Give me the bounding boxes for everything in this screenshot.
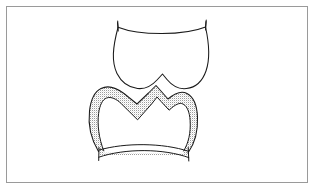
upper-tooth-left-tick <box>118 21 119 31</box>
upper-tooth-right-tick <box>206 20 207 30</box>
dental-line-drawing <box>0 0 314 189</box>
lower-tooth-right-tick <box>188 148 189 162</box>
figure-canvas: Occlusal relationship of opposing poster… <box>0 0 314 189</box>
